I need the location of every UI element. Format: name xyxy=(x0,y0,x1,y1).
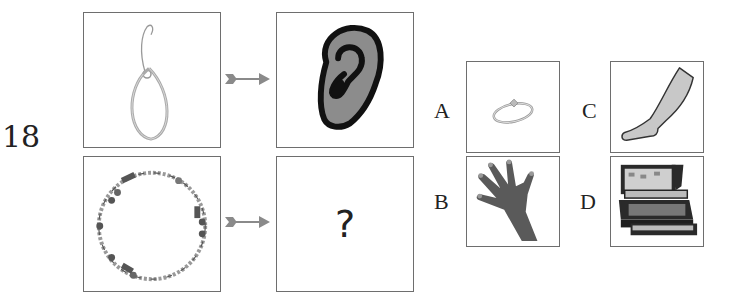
option-c-leg[interactable] xyxy=(610,61,704,153)
bracelet-image-box xyxy=(83,156,221,292)
earring-icon xyxy=(84,13,220,147)
option-d-jewelry-box[interactable] xyxy=(610,156,704,247)
ring-icon xyxy=(467,62,559,152)
option-label-a: A xyxy=(434,100,450,122)
ear-image-box xyxy=(276,12,414,148)
leg-icon xyxy=(611,62,703,152)
hand-glove-icon xyxy=(467,157,559,246)
option-label-c: C xyxy=(582,100,597,122)
question-number: 18 xyxy=(2,122,40,152)
answer-placeholder-box: ? xyxy=(276,156,414,292)
arrow-icon xyxy=(225,214,271,230)
bracelet-icon xyxy=(84,157,220,291)
jewelry-box-icon xyxy=(611,157,703,246)
question-mark: ? xyxy=(277,202,413,246)
option-label-b: B xyxy=(434,191,449,213)
option-a-ring[interactable] xyxy=(466,61,560,153)
earring-image-box xyxy=(83,12,221,148)
option-label-d: D xyxy=(580,191,596,213)
ear-icon xyxy=(277,13,413,147)
option-b-hand[interactable] xyxy=(466,156,560,247)
arrow-icon xyxy=(225,71,271,87)
